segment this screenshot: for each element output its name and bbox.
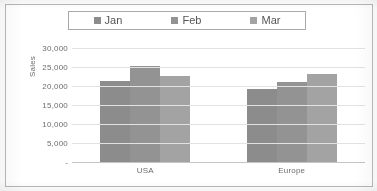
plot-area bbox=[72, 48, 365, 162]
bar-usa-feb[interactable] bbox=[130, 66, 160, 162]
gridline bbox=[72, 124, 365, 125]
bar-usa-jan[interactable] bbox=[100, 81, 130, 162]
legend-square-icon bbox=[171, 17, 178, 24]
y-axis-tick-label: - bbox=[65, 158, 68, 167]
legend-item-feb[interactable]: Feb bbox=[171, 15, 201, 26]
gridline bbox=[72, 48, 365, 49]
gridline bbox=[72, 67, 365, 68]
gridline bbox=[72, 143, 365, 144]
legend-item-label: Feb bbox=[182, 15, 201, 26]
y-axis-tick-label: 5,000 bbox=[47, 139, 68, 148]
y-axis-tick-label: 25,000 bbox=[42, 63, 68, 72]
legend-item-label: Mar bbox=[261, 15, 280, 26]
x-axis-category-labels: USAEurope bbox=[72, 166, 365, 175]
bar-europe-jan[interactable] bbox=[247, 89, 277, 162]
legend-square-icon bbox=[94, 17, 101, 24]
y-axis-tick-labels: 30,00025,00020,00015,00010,0005,000- bbox=[26, 48, 68, 162]
bar-europe-feb[interactable] bbox=[277, 82, 307, 162]
legend-item-mar[interactable]: Mar bbox=[250, 15, 280, 26]
y-axis-tick-label: 30,000 bbox=[42, 44, 68, 53]
x-axis-label-usa: USA bbox=[72, 166, 219, 175]
legend-item-jan[interactable]: Jan bbox=[94, 15, 123, 26]
chart-legend[interactable]: JanFebMar bbox=[68, 11, 306, 30]
x-axis-line bbox=[72, 162, 365, 163]
x-axis-label-europe: Europe bbox=[219, 166, 366, 175]
y-axis-tick-label: 10,000 bbox=[42, 120, 68, 129]
legend-item-label: Jan bbox=[105, 15, 123, 26]
y-axis-tick-label: 20,000 bbox=[42, 82, 68, 91]
gridline bbox=[72, 86, 365, 87]
y-axis-tick-label: 15,000 bbox=[42, 101, 68, 110]
chart-figure: JanFebMar Sales 30,00025,00020,00015,000… bbox=[0, 0, 377, 191]
gridline bbox=[72, 105, 365, 106]
bar-usa-mar[interactable] bbox=[160, 76, 190, 162]
legend-square-icon bbox=[250, 17, 257, 24]
bar-europe-mar[interactable] bbox=[307, 74, 337, 162]
